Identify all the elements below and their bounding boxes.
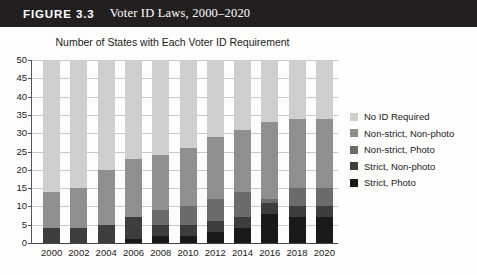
chart-title: Number of States with Each Voter ID Requ…	[0, 36, 345, 48]
bar-segment	[43, 60, 60, 192]
bar-segment	[316, 188, 333, 206]
bar-segment	[289, 206, 306, 217]
bar-segment	[234, 217, 251, 228]
bar-segment	[207, 221, 224, 232]
legend-swatch-icon	[350, 129, 358, 137]
x-axis-line	[31, 243, 338, 244]
bar-segment	[70, 60, 87, 188]
bar-segment	[70, 188, 87, 228]
y-tick-mark	[28, 133, 32, 134]
y-tick-label: 20	[16, 165, 27, 175]
chart-container: Number of States with Each Voter ID Requ…	[0, 27, 477, 275]
bar-segment	[207, 60, 224, 137]
legend-label: Strict, Non-photo	[364, 161, 435, 172]
bar-segment	[98, 60, 115, 170]
bar-segment	[125, 239, 142, 243]
figure-header-bar: FIGURE 3.3 Voter ID Laws, 2000–2020	[0, 0, 477, 27]
x-tick-label: 2020	[304, 247, 344, 258]
y-tick-label: 15	[16, 183, 27, 193]
bar-segment	[180, 148, 197, 207]
y-tick-label: 25	[16, 147, 27, 157]
bar-segment	[261, 122, 278, 199]
bar-segment	[152, 60, 169, 155]
legend-label: Non-strict, Non-photo	[364, 128, 454, 139]
y-tick-mark	[28, 243, 32, 244]
bar-segment	[289, 119, 306, 189]
bar-segment	[261, 203, 278, 214]
legend-swatch-icon	[350, 146, 358, 154]
bar-2002[interactable]	[70, 60, 87, 243]
bar-2008[interactable]	[152, 60, 169, 243]
bar-segment	[70, 228, 87, 243]
y-tick-mark	[28, 170, 32, 171]
legend-swatch-icon	[350, 113, 358, 121]
bar-segment	[152, 210, 169, 225]
y-tick-mark	[28, 97, 32, 98]
y-tick-mark	[28, 60, 32, 61]
y-tick-label: 45	[16, 74, 27, 84]
bar-segment	[152, 155, 169, 210]
bar-2016[interactable]	[261, 60, 278, 243]
bar-segment	[43, 228, 60, 243]
chart-legend: No ID RequiredNon-strict, Non-photoNon-s…	[350, 111, 454, 194]
y-tick-label: 50	[16, 55, 27, 65]
bar-segment	[43, 192, 60, 229]
y-tick-label: 5	[22, 220, 27, 230]
bar-2012[interactable]	[207, 60, 224, 243]
bar-segment	[125, 217, 142, 239]
bar-segment	[125, 159, 142, 218]
bar-segment	[234, 192, 251, 218]
bar-segment	[207, 232, 224, 243]
legend-item[interactable]: Non-strict, Non-photo	[350, 128, 454, 139]
y-tick-mark	[28, 152, 32, 153]
bar-2018[interactable]	[289, 60, 306, 243]
bar-segment	[234, 228, 251, 243]
y-tick-label: 40	[16, 92, 27, 102]
bar-segment	[152, 236, 169, 243]
bar-segment	[316, 217, 333, 243]
y-tick-mark	[28, 115, 32, 116]
bar-2014[interactable]	[234, 60, 251, 243]
plot-area: 05101520253035404550 2000200220042006200…	[32, 60, 338, 243]
y-tick-label: 35	[16, 110, 27, 120]
bar-segment	[207, 137, 224, 199]
y-tick-mark	[28, 78, 32, 79]
bar-segment	[316, 60, 333, 119]
y-tick-mark	[28, 206, 32, 207]
bar-segment	[261, 214, 278, 243]
bar-2020[interactable]	[316, 60, 333, 243]
y-tick-label: 30	[16, 128, 27, 138]
legend-item[interactable]: Non-strict, Photo	[350, 144, 454, 155]
legend-label: No ID Required	[364, 111, 429, 122]
y-tick-label: 10	[16, 202, 27, 212]
bar-segment	[316, 119, 333, 189]
bar-segment	[125, 60, 142, 159]
legend-item[interactable]: Strict, Non-photo	[350, 161, 454, 172]
legend-item[interactable]: No ID Required	[350, 111, 454, 122]
y-tick-mark	[28, 188, 32, 189]
bar-2010[interactable]	[180, 60, 197, 243]
bar-segment	[152, 225, 169, 236]
bar-segment	[180, 206, 197, 224]
bar-segment	[180, 236, 197, 243]
bar-segment	[261, 60, 278, 122]
legend-item[interactable]: Strict, Photo	[350, 177, 454, 188]
bar-2006[interactable]	[125, 60, 142, 243]
bar-segment	[98, 170, 115, 225]
bar-segment	[180, 60, 197, 148]
bar-segment	[207, 199, 224, 221]
bar-segment	[180, 225, 197, 236]
bar-segment	[289, 188, 306, 206]
bar-2004[interactable]	[98, 60, 115, 243]
bar-segment	[289, 217, 306, 243]
figure-title: Voter ID Laws, 2000–2020	[110, 6, 251, 21]
bar-2000[interactable]	[43, 60, 60, 243]
legend-swatch-icon	[350, 179, 358, 187]
bar-segment	[234, 130, 251, 192]
bar-segment	[234, 60, 251, 130]
y-tick-mark	[28, 225, 32, 226]
legend-swatch-icon	[350, 162, 358, 170]
bar-segment	[289, 60, 306, 119]
legend-label: Strict, Photo	[364, 177, 416, 188]
figure-number: FIGURE 3.3	[23, 8, 95, 20]
